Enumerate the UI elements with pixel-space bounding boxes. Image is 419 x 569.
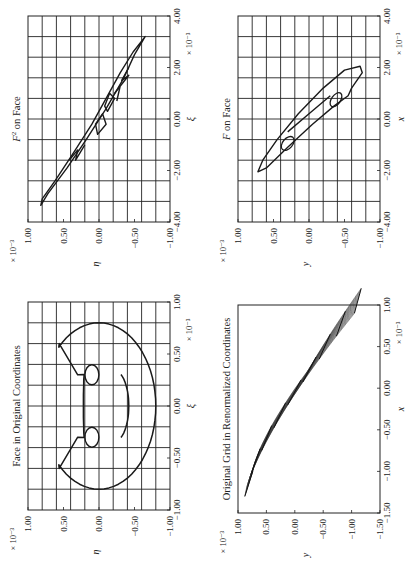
plot-area bbox=[28, 302, 170, 510]
f2-mouth-right bbox=[115, 68, 129, 102]
x-axis-label: ξ bbox=[185, 116, 197, 121]
f-eye-right bbox=[328, 91, 345, 109]
tick-labels: −1.50−1.00−0.500.000.501.00−1.50−1.00−0.… bbox=[233, 297, 392, 540]
y-tick-label: −1.00 bbox=[165, 516, 175, 537]
y-tick-label: −1.00 bbox=[375, 228, 385, 249]
plot-area bbox=[238, 16, 380, 222]
y-axis-label: η bbox=[90, 261, 101, 266]
y-tick-label: −0.50 bbox=[318, 519, 328, 540]
x-tick-label: 2.00 bbox=[382, 59, 392, 75]
y-tick-label: 1.00 bbox=[233, 519, 243, 535]
grid-lines bbox=[28, 302, 170, 510]
x-tick-label: 0.50 bbox=[172, 346, 182, 362]
y-axis-label: y bbox=[300, 552, 311, 558]
chart-title: F2 on Face bbox=[10, 96, 22, 143]
y-tick-label: −0.50 bbox=[340, 228, 350, 249]
x-tick-label: 1.00 bbox=[382, 297, 392, 313]
y-tick-label: −0.50 bbox=[130, 228, 140, 249]
grid-renormalized-plot: −1.50−1.00−0.500.000.501.00−1.50−1.00−0.… bbox=[210, 285, 419, 569]
tick-labels: −1.00−0.500.000.501.00−1.00−0.500.000.50… bbox=[23, 294, 182, 537]
y-multiplier: × 10⁻³ bbox=[8, 240, 18, 263]
x-tick-label: −0.50 bbox=[172, 447, 182, 468]
face-left-eye bbox=[85, 427, 99, 447]
chart-grid-renormalized: −1.50−1.00−0.500.000.501.00−1.50−1.00−0.… bbox=[210, 285, 419, 569]
x-tick-label: 0.50 bbox=[382, 338, 392, 354]
chart-f2-on-face: −4.00−2.000.002.004.00−1.00−0.500.000.50… bbox=[0, 0, 210, 285]
x-tick-label: 0.00 bbox=[172, 111, 182, 127]
face-original-plot: −1.00−0.500.000.501.00−1.00−0.500.000.50… bbox=[0, 285, 210, 569]
plot-area bbox=[238, 288, 380, 513]
grid-lines bbox=[238, 16, 380, 222]
y-tick-label: 0.00 bbox=[304, 228, 314, 244]
y-tick-label: 1.00 bbox=[23, 228, 33, 244]
x-tick-label: 0.00 bbox=[382, 380, 392, 396]
y-multiplier: × 10⁻³ bbox=[218, 531, 228, 554]
plot-area bbox=[28, 16, 170, 222]
x-tick-label: −2.00 bbox=[382, 160, 392, 181]
f-eye-left bbox=[279, 134, 297, 153]
chart-title: Original Grid in Renormalized Coordinate… bbox=[221, 318, 232, 501]
x-tick-label: −2.00 bbox=[172, 160, 182, 181]
f2-on-face-plot: −4.00−2.000.002.004.00−1.00−0.500.000.50… bbox=[0, 0, 210, 285]
y-tick-label: 0.00 bbox=[290, 519, 300, 535]
x-axis-label: x bbox=[395, 406, 406, 412]
x-multiplier: × 10⁻³ bbox=[394, 321, 404, 344]
chart-f-on-face: −4.00−2.000.002.004.00−1.00−0.500.000.50… bbox=[210, 0, 419, 285]
y-tick-label: 0.00 bbox=[94, 516, 104, 532]
renormalized-grid-band bbox=[245, 288, 361, 496]
x-multiplier: × 10⁻³ bbox=[184, 32, 194, 55]
x-tick-label: 4.00 bbox=[382, 8, 392, 24]
y-tick-label: −1.00 bbox=[165, 228, 175, 249]
y-axis-label: η bbox=[90, 549, 101, 554]
x-tick-label: 4.00 bbox=[172, 8, 182, 24]
x-multiplier: × 10⁻³ bbox=[184, 318, 194, 341]
chart-title: F on Face bbox=[221, 98, 232, 141]
x-axis-label: x bbox=[395, 116, 406, 122]
y-tick-label: −1.00 bbox=[347, 519, 357, 540]
x-multiplier: × 10⁻³ bbox=[394, 32, 404, 55]
y-tick-label: −0.50 bbox=[130, 516, 140, 537]
x-tick-label: 1.00 bbox=[172, 294, 182, 310]
chart-face-original: −1.00−0.500.000.501.00−1.00−0.500.000.50… bbox=[0, 285, 210, 569]
f-on-face-plot: −4.00−2.000.002.004.00−1.00−0.500.000.50… bbox=[210, 0, 419, 285]
chart-title: Face in Original Coordinates bbox=[11, 345, 22, 467]
tick-labels: −4.00−2.000.002.004.00−1.00−0.500.000.50… bbox=[233, 8, 392, 249]
x-tick-label: 2.00 bbox=[172, 59, 182, 75]
y-tick-label: 0.50 bbox=[261, 519, 271, 535]
y-tick-label: 0.50 bbox=[59, 228, 69, 244]
x-tick-label: −0.50 bbox=[382, 419, 392, 440]
y-tick-label: 0.50 bbox=[59, 516, 69, 532]
x-tick-label: 0.00 bbox=[172, 398, 182, 414]
plot-frame bbox=[238, 305, 380, 513]
x-axis-label: ξ bbox=[185, 403, 197, 408]
y-tick-label: −1.50 bbox=[375, 519, 385, 540]
y-multiplier: × 10⁻³ bbox=[218, 240, 228, 263]
x-tick-label: 0.00 bbox=[382, 111, 392, 127]
face-right-eye bbox=[85, 365, 99, 385]
y-tick-label: 1.00 bbox=[233, 228, 243, 244]
f2-eye-left bbox=[96, 114, 107, 135]
x-tick-label: −1.00 bbox=[382, 460, 392, 481]
y-multiplier: × 10⁻³ bbox=[8, 528, 18, 551]
y-tick-label: 0.50 bbox=[269, 228, 279, 244]
y-tick-label: 0.00 bbox=[94, 228, 104, 244]
y-axis-label: y bbox=[300, 261, 311, 267]
y-tick-label: 1.00 bbox=[23, 516, 33, 532]
